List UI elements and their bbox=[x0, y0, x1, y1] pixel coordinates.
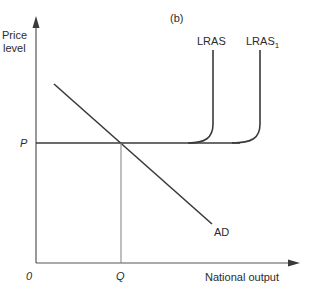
panel-label: (b) bbox=[170, 12, 183, 24]
lras1-label-base: LRAS bbox=[246, 35, 275, 47]
y-axis-label-line1: Price bbox=[2, 29, 27, 41]
x-axis-label: National output bbox=[205, 271, 279, 283]
ad-curve bbox=[54, 84, 212, 224]
lras1-label: LRAS1 bbox=[246, 35, 280, 50]
y-axis bbox=[33, 16, 40, 263]
diagram-canvas: (b) Price level LRAS LRAS1 AD P 0 Q Nati… bbox=[0, 0, 312, 289]
lras1-label-subscript: 1 bbox=[275, 41, 280, 50]
y-axis-arrow-icon bbox=[33, 16, 40, 28]
y-axis-label-line2: level bbox=[3, 42, 26, 54]
lras-curve bbox=[188, 50, 213, 143]
lras1-curve bbox=[232, 50, 260, 143]
economics-diagram: (b) Price level LRAS LRAS1 AD P 0 Q Nati… bbox=[0, 0, 312, 289]
x-axis-arrow-icon bbox=[288, 260, 300, 267]
x-axis bbox=[36, 260, 300, 267]
lras-label: LRAS bbox=[197, 35, 226, 47]
ad-label: AD bbox=[214, 226, 229, 238]
quantity-label: Q bbox=[116, 270, 125, 282]
price-label: P bbox=[20, 137, 28, 149]
origin-label: 0 bbox=[26, 270, 33, 282]
